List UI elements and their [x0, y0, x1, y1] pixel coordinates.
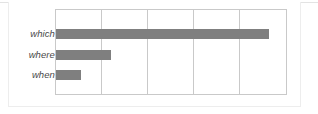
bar-which — [56, 29, 269, 39]
axis-label-which: which — [5, 24, 55, 44]
axis-label-when-container: when — [5, 65, 55, 85]
axis-label-which-container: which — [5, 24, 55, 44]
bar-when — [56, 70, 81, 80]
bar-row-when: when — [0, 65, 318, 85]
bar-row-which: which — [0, 24, 318, 44]
axis-label-where: where — [5, 45, 55, 65]
axis-label-where-container: where — [5, 45, 55, 65]
horizontal-bar-chart: which where when — [0, 0, 318, 114]
axis-label-when: when — [5, 65, 55, 85]
bar-where — [56, 50, 111, 60]
bar-row-where: where — [0, 45, 318, 65]
screenshot-root: which where when — [0, 0, 318, 114]
